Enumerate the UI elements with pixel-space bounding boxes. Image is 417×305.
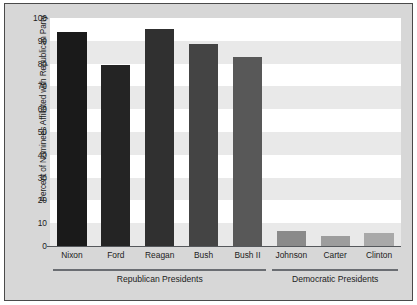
bar <box>189 44 218 246</box>
x-axis-category-labels: NixonFordReaganBushBush IIJohnsonCarterC… <box>50 250 401 266</box>
y-tick-label: 60 <box>23 104 47 114</box>
y-tick-label: 80 <box>23 59 47 69</box>
group-rule <box>272 269 398 271</box>
bar <box>145 29 174 246</box>
category-label: Nixon <box>50 250 94 260</box>
y-tick-label: 100 <box>23 13 47 23</box>
bar <box>233 57 262 246</box>
category-label: Bush II <box>226 250 270 260</box>
x-axis-line <box>47 246 401 247</box>
group-rule <box>53 269 266 271</box>
bar <box>364 233 393 246</box>
category-label: Carter <box>313 250 357 260</box>
y-tick-label: 30 <box>23 173 47 183</box>
y-axis-tick-labels: 0102030405060708090100 <box>23 18 47 246</box>
y-tick-label: 50 <box>23 127 47 137</box>
plot-area <box>50 18 401 246</box>
y-tick-label: 70 <box>23 81 47 91</box>
bar <box>277 231 306 246</box>
bar <box>101 65 130 246</box>
category-label: Clinton <box>357 250 401 260</box>
y-tick-label: 40 <box>23 150 47 160</box>
category-label: Bush <box>182 250 226 260</box>
y-tick-label: 90 <box>23 36 47 46</box>
chart-figure: Percent of Nominees Affiliated with Repu… <box>4 3 413 301</box>
y-tick-label: 0 <box>23 241 47 251</box>
y-tick-label: 10 <box>23 218 47 228</box>
category-label: Reagan <box>138 250 182 260</box>
bar-series <box>50 18 401 246</box>
category-label: Ford <box>94 250 138 260</box>
bar <box>321 236 350 246</box>
category-label: Johnson <box>269 250 313 260</box>
bar <box>57 32 86 246</box>
group-label: Democratic Presidents <box>272 274 398 284</box>
y-tick-label: 20 <box>23 195 47 205</box>
group-label: Republican Presidents <box>53 274 266 284</box>
